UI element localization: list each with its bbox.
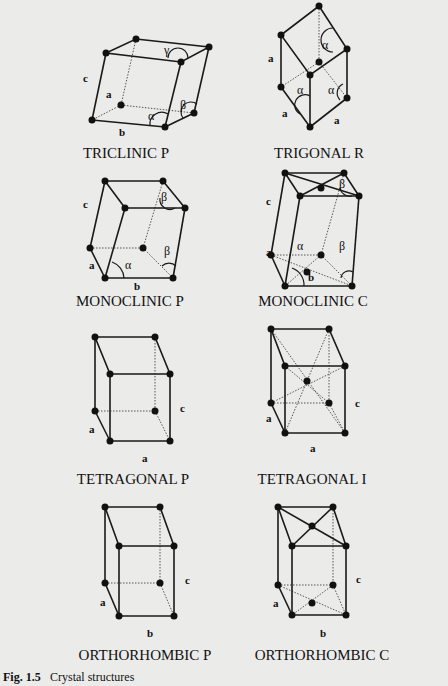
structure-title-monoclinic-p: MONOCLINIC P: [76, 293, 184, 309]
axis-label-b: b: [320, 627, 326, 639]
axis-label-c: c: [185, 574, 190, 586]
axis-label-a: a: [334, 114, 340, 126]
angle-label-alpha: α: [148, 109, 155, 123]
axis-label-c: c: [83, 72, 88, 84]
angle-label-alpha: α: [297, 239, 304, 253]
structure-title-orthorhombic-p: ORTHORHOMBIC P: [79, 647, 212, 663]
axis-label-b: b: [147, 627, 153, 639]
axis-label-a: a: [266, 246, 272, 258]
structure-title-monoclinic-c: MONOCLINIC C: [258, 293, 368, 309]
axis-label-a: a: [282, 107, 288, 119]
structure-title-tetragonal-p: TETRAGONAL P: [77, 471, 189, 487]
axis-label-a: a: [142, 452, 148, 464]
angle-label-alpha: α: [328, 83, 335, 97]
axis-label-a: a: [100, 596, 106, 608]
axis-label-b: b: [119, 126, 125, 138]
angle-label-alpha: α: [297, 83, 304, 97]
axis-label-a: a: [273, 597, 279, 609]
axis-label-c: c: [266, 195, 271, 207]
axis-label-c: c: [180, 402, 185, 414]
angle-label-alpha: α: [322, 38, 329, 52]
crystal-structures-figure: c a b α β γ TRICLINIC P a a a α α α: [0, 0, 448, 686]
caption-number: Fig. 1.5: [3, 670, 41, 684]
monoclinic-c-diagram: c a b α β β MONOCLINIC C: [258, 170, 368, 310]
angle-label-beta: β: [161, 190, 167, 204]
axis-label-a: a: [89, 259, 95, 271]
axis-label-a: a: [89, 423, 95, 435]
monoclinic-p-diagram: c a b α β β MONOCLINIC P: [76, 178, 188, 310]
axis-label-a: a: [268, 52, 274, 64]
angle-label-alpha: α: [125, 258, 132, 272]
orthorhombic-c-diagram: a b c ORTHORHOMBIC C: [255, 504, 390, 664]
structure-title-tetragonal-i: TETRAGONAL I: [257, 471, 366, 487]
axis-label-c: c: [83, 198, 88, 210]
trigonal-r-diagram: a a a α α α TRIGONAL R: [268, 3, 364, 162]
tetragonal-i-diagram: a a c TETRAGONAL I: [257, 326, 366, 488]
caption-text: Crystal structures: [50, 670, 135, 684]
figure-caption: Fig. 1.5 Crystal structures: [3, 670, 135, 684]
angle-label-beta: β: [180, 98, 186, 112]
angle-label-gamma: γ: [163, 43, 170, 57]
triclinic-p-diagram: c a b α β γ TRICLINIC P: [83, 36, 213, 162]
axis-label-c: c: [355, 397, 360, 409]
angle-label-beta: β: [339, 177, 345, 191]
structure-title-trigonal-r: TRIGONAL R: [274, 145, 364, 161]
structure-title-triclinic-p: TRICLINIC P: [83, 145, 169, 161]
orthorhombic-p-diagram: a b c ORTHORHOMBIC P: [79, 504, 212, 664]
axis-label-a: a: [266, 412, 272, 424]
angle-label-beta: β: [164, 244, 170, 258]
axis-label-b: b: [308, 271, 314, 283]
axis-label-a: a: [310, 442, 316, 454]
axis-label-b: b: [134, 280, 140, 292]
angle-label-beta: β: [339, 239, 345, 253]
axis-label-a: a: [106, 88, 112, 100]
structure-title-orthorhombic-c: ORTHORHOMBIC C: [255, 647, 390, 663]
tetragonal-p-diagram: a a c TETRAGONAL P: [77, 334, 189, 488]
axis-label-c: c: [356, 573, 361, 585]
